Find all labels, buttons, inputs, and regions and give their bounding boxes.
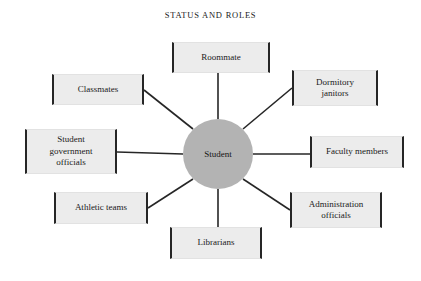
node-box-roommate: Roommate [172, 42, 270, 73]
node-label-librarians: Librarians [172, 237, 260, 249]
connector-athletic-teams [148, 179, 193, 208]
node-label-athletic-teams: Athletic teams [56, 202, 146, 214]
node-box-classmates: Classmates [52, 74, 144, 105]
connector-classmates [144, 90, 193, 129]
center-node-label: Student [204, 149, 232, 159]
node-box-faculty-members: Faculty members [310, 136, 404, 168]
node-label-faculty-members: Faculty members [312, 146, 402, 158]
node-box-student-government-officials: Studentgovernmentofficials [25, 129, 117, 174]
node-label-dormitory-janitors: Dormitoryjanitors [294, 77, 376, 100]
node-label-administration-officials: Administrationofficials [292, 199, 380, 222]
node-label-roommate: Roommate [174, 52, 268, 64]
connector-administration-officials [243, 179, 290, 210]
node-label-student-government-officials: Studentgovernmentofficials [27, 134, 115, 169]
connector-dormitory-janitors [243, 88, 292, 129]
node-box-librarians: Librarians [170, 227, 262, 259]
node-label-classmates: Classmates [54, 84, 142, 96]
node-box-athletic-teams: Athletic teams [54, 192, 148, 224]
status-and-roles-diagram: STATUS AND ROLES Student RoommateDormito… [0, 0, 421, 281]
node-box-administration-officials: Administrationofficials [290, 192, 382, 228]
center-node-student: Student [183, 119, 253, 189]
node-box-dormitory-janitors: Dormitoryjanitors [292, 70, 378, 106]
connector-student-government-officials [117, 152, 183, 154]
